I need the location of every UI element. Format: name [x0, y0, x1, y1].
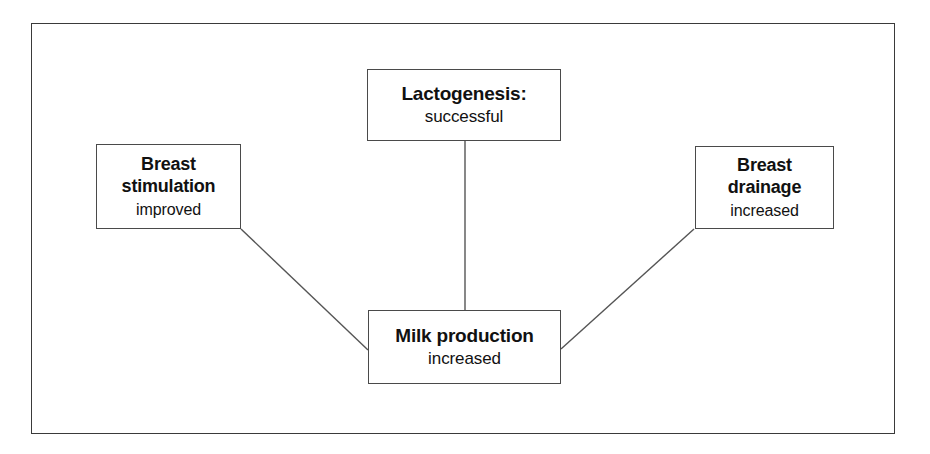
node-breast-stimulation-state: improved	[136, 200, 201, 220]
node-lactogenesis-state: successful	[425, 107, 503, 128]
node-breast-drainage-state: increased	[730, 201, 798, 221]
node-lactogenesis: Lactogenesis: successful	[367, 69, 561, 141]
node-milk-production-title: Milk production	[395, 324, 533, 347]
node-breast-drainage: Breast drainage increased	[695, 146, 834, 229]
node-lactogenesis-title: Lactogenesis:	[401, 82, 526, 105]
node-milk-production-state: increased	[428, 349, 501, 370]
node-milk-production: Milk production increased	[368, 310, 561, 384]
diagram-page: Lactogenesis: successful Breast stimulat…	[0, 0, 930, 454]
node-breast-stimulation: Breast stimulation improved	[96, 144, 241, 229]
node-breast-drainage-title: Breast drainage	[728, 155, 801, 199]
node-breast-stimulation-title: Breast stimulation	[122, 154, 216, 198]
